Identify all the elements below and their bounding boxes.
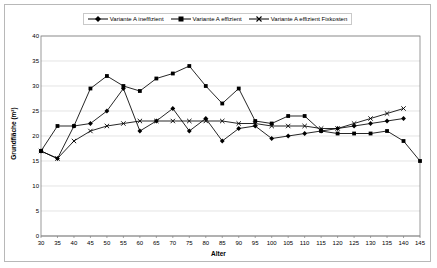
- x-tick-label: 40: [71, 240, 78, 246]
- x-tick-label: 50: [104, 240, 111, 246]
- x-tick-label: 140: [399, 240, 409, 246]
- x-tick-label: 100: [267, 240, 277, 246]
- x-tick-label: 55: [120, 240, 127, 246]
- x-tick-label: 95: [252, 240, 259, 246]
- x-tick-label: 60: [137, 240, 144, 246]
- x-tick-label: 120: [333, 240, 343, 246]
- x-tick-label: 105: [283, 240, 293, 246]
- x-tick-label: 125: [349, 240, 359, 246]
- x-axis-label: Alter: [5, 250, 432, 257]
- x-tick-label: 130: [366, 240, 376, 246]
- x-tick-label: 45: [87, 240, 94, 246]
- x-tick-label: 80: [202, 240, 209, 246]
- x-tick-label: 145: [415, 240, 425, 246]
- x-tick-label: 70: [169, 240, 176, 246]
- x-tick-label: 110: [300, 240, 310, 246]
- x-tick-label: 30: [38, 240, 45, 246]
- x-tick-label: 90: [235, 240, 242, 246]
- x-tick-label: 35: [54, 240, 61, 246]
- x-tick-label: 115: [316, 240, 326, 246]
- x-tick-label: 65: [153, 240, 160, 246]
- x-tick-label: 135: [382, 240, 392, 246]
- chart-figure: Variante A ineffizient Variante A effizi…: [4, 4, 431, 262]
- x-tick-label: 85: [219, 240, 226, 246]
- x-axis-ticks: 3035404550556065707580859095100105110115…: [5, 5, 432, 263]
- x-tick-label: 75: [186, 240, 193, 246]
